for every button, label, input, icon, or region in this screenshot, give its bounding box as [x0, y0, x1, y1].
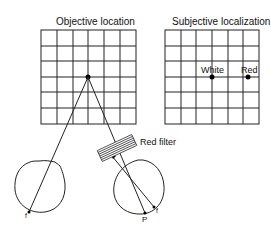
white-label: White: [201, 65, 224, 75]
red-point: [246, 75, 251, 80]
objective-title: Objective location: [56, 16, 135, 27]
white-point: [210, 75, 215, 80]
diagram-canvas: [0, 0, 271, 229]
fovea-left-label: f: [25, 212, 27, 219]
red-filter: [97, 135, 137, 162]
red-label: Red: [241, 65, 258, 75]
right-eye: [114, 160, 164, 214]
point-p-label: P: [142, 215, 147, 224]
subjective-title: Subjective localization: [172, 16, 270, 27]
fovea-right-label: f: [156, 207, 158, 214]
red-filter-label: Red filter: [140, 137, 176, 147]
